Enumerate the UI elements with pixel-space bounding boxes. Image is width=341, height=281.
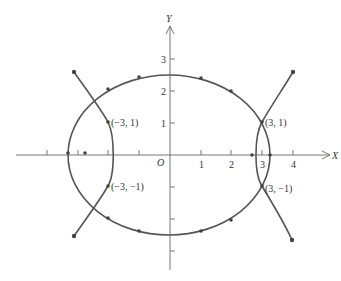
origin-label: O [157,157,164,168]
x-axis-label: X [331,150,339,161]
x-axis [16,150,330,159]
hyperbola-left-branch [74,72,113,236]
point-label-neg3-neg1: (−3, −1) [111,181,144,193]
x-tick-3: 3 [260,159,265,170]
point-label-3-neg1: (3, −1) [265,183,292,195]
hyperbola-left-inner [102,122,108,186]
graph-canvas: Y X O 1 2 3 4 1 2 3 (−3, 1) (3, 1) (−3, … [0,0,341,281]
point-label-3-1: (3, 1) [265,117,287,129]
hyperbola-left-branch [78,72,110,236]
point-label-neg3-1: (−3, 1) [111,117,138,129]
x-tick-1: 1 [199,159,204,170]
x-tick-2: 2 [229,159,234,170]
y-axis-label: Y [166,13,173,24]
hyperbola-right-branch [256,72,293,240]
y-tick-1: 1 [161,118,166,129]
y-tick-3: 3 [161,54,166,65]
y-tick-2: 2 [161,86,166,97]
y-axis [166,26,175,270]
x-tick-4: 4 [291,159,296,170]
diagram: Y X O 1 2 3 4 1 2 3 (−3, 1) (3, 1) (−3, … [0,0,341,281]
